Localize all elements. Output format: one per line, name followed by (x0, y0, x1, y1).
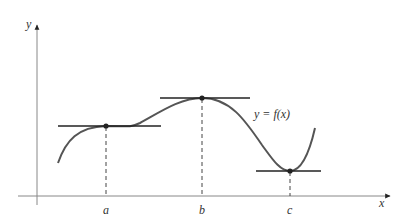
x-axis-label: x (378, 196, 385, 210)
y-axis-label: y (25, 17, 32, 31)
point-c-label: c (287, 203, 293, 217)
function-label: y = f(x) (253, 107, 290, 121)
point-b-label: b (199, 203, 205, 217)
point-a (103, 123, 108, 128)
point-c (287, 168, 292, 173)
point-a-label: a (103, 203, 109, 217)
point-b (199, 95, 204, 100)
diagram-canvas: y x a b c y = f(x) (0, 0, 402, 219)
